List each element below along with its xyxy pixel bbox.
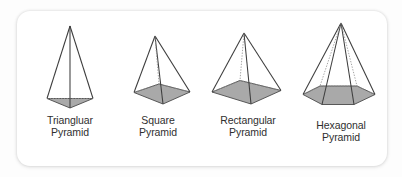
label-line-1: Triangluar (24, 114, 116, 126)
pyramid-diagrams: .edge { stroke:#4a4a4a; stroke-width:0.9… (0, 0, 402, 177)
label-line-2: Pyramid (24, 126, 116, 138)
label-triangular-pyramid: Triangluar Pyramid (24, 114, 116, 139)
square-pyramid-shape (134, 36, 190, 104)
triangular-pyramid-shape (47, 26, 93, 108)
label-line-2: Pyramid (117, 126, 199, 138)
rectangular-pyramid-shape (212, 33, 281, 104)
label-hexagonal-pyramid: Hexagonal Pyramid (295, 119, 387, 144)
label-square-pyramid: Square Pyramid (117, 114, 199, 139)
label-line-2: Pyramid (198, 126, 298, 138)
label-line-1: Rectangular (198, 114, 298, 126)
label-line-2: Pyramid (295, 131, 387, 143)
hexagonal-pyramid-shape (303, 23, 375, 105)
label-line-1: Hexagonal (295, 119, 387, 131)
label-line-1: Square (117, 114, 199, 126)
pyramids-figure: .edge { stroke:#4a4a4a; stroke-width:0.9… (0, 0, 402, 177)
label-rectangular-pyramid: Rectangular Pyramid (198, 114, 298, 139)
